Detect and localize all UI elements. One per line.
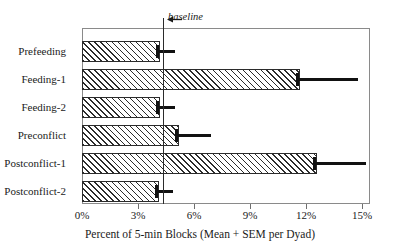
error-bar-cap — [175, 129, 178, 142]
x-tick-label: 0% — [60, 209, 104, 221]
x-tick-label: 9% — [228, 209, 272, 221]
baseline-reference-line — [163, 18, 164, 204]
bar-chart: PrefeedingFeeding-1Feeding-2PreconflictP… — [0, 0, 400, 252]
x-tick-label: 6% — [172, 209, 216, 221]
x-tick-label: 3% — [116, 209, 160, 221]
error-bar-feeding-1 — [296, 78, 358, 81]
bar-postconflict-2 — [82, 181, 159, 202]
error-bar-cap — [156, 101, 159, 114]
bar-row — [82, 153, 382, 174]
bar-feeding-2 — [82, 97, 160, 118]
x-tick-label: 15% — [340, 209, 384, 221]
bar-prefeeding — [82, 41, 160, 62]
bar-row — [82, 97, 382, 118]
error-bar-cap — [155, 185, 158, 198]
bar-row — [82, 125, 382, 146]
error-bar-preconflict — [175, 134, 211, 137]
bar-postconflict-1 — [82, 153, 317, 174]
category-label-postconflict-1: Postconflict-1 — [0, 157, 66, 169]
error-bar-cap — [156, 45, 159, 58]
category-label-postconflict-2: Postconflict-2 — [0, 185, 66, 197]
bar-row — [82, 69, 382, 90]
bar-row — [82, 181, 382, 202]
error-bar-cap — [296, 73, 299, 86]
baseline-annotation: baseline — [168, 11, 203, 22]
category-label-prefeeding: Prefeeding — [0, 45, 66, 57]
category-label-feeding-2: Feeding-2 — [0, 101, 66, 113]
bar-feeding-1 — [82, 69, 300, 90]
bar-preconflict — [82, 125, 179, 146]
error-bar-cap — [313, 157, 316, 170]
category-label-feeding-1: Feeding-1 — [0, 73, 66, 85]
error-bar-postconflict-1 — [313, 162, 366, 165]
x-axis-title: Percent of 5-min Blocks (Mean + SEM per … — [0, 228, 400, 240]
category-label-preconflict: Preconflict — [0, 129, 66, 141]
bar-row — [82, 41, 382, 62]
x-tick-label: 12% — [284, 209, 328, 221]
